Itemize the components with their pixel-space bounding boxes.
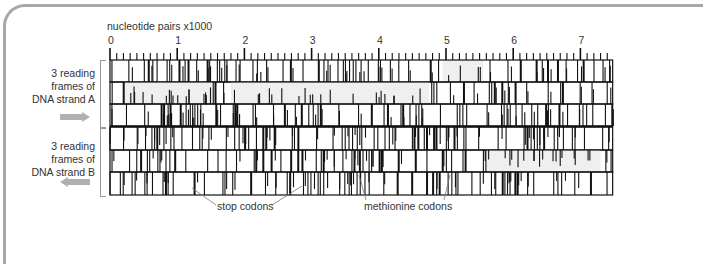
stop-codons-label: stop codons bbox=[217, 200, 274, 212]
methionine-codons-label: methionine codons bbox=[364, 200, 452, 212]
